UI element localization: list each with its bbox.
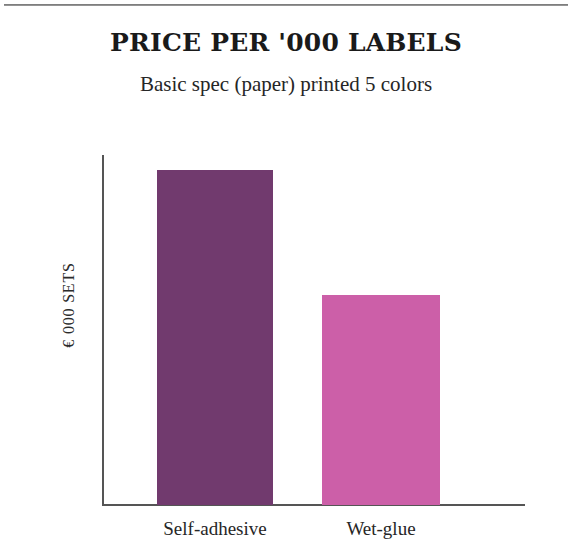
top-divider-rule xyxy=(4,4,568,6)
plot-area xyxy=(102,155,525,505)
chart-figure: PRICE PER '000 LABELS Basic spec (paper)… xyxy=(0,0,572,551)
bar-wet-glue xyxy=(322,295,440,505)
y-axis-label: € 000 SETS xyxy=(60,225,78,385)
chart-subtitle: Basic spec (paper) printed 5 colors xyxy=(0,72,572,97)
chart-title: PRICE PER '000 LABELS xyxy=(0,28,572,57)
bar-self-adhesive xyxy=(157,170,273,505)
x-tick-label-wet-glue: Wet-glue xyxy=(291,518,471,540)
x-tick-label-self-adhesive: Self-adhesive xyxy=(115,518,315,540)
